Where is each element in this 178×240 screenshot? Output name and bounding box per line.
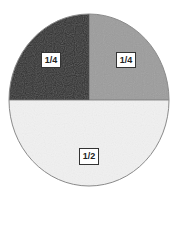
slice-label-bottom: 1/2	[79, 148, 99, 165]
pie-slice-half-light	[9, 100, 169, 186]
slice-label-top-left: 1/4	[41, 52, 61, 68]
slice-label-top-right: 1/4	[116, 52, 136, 68]
